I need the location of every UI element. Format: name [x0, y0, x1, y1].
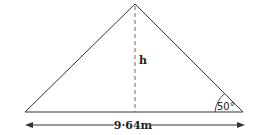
triangle-outline	[25, 4, 243, 112]
angle-label: 50°	[217, 101, 235, 112]
triangle-diagram: h 50° 9·64m	[0, 0, 258, 135]
arrowhead-left-icon	[25, 122, 33, 128]
arrowhead-right-icon	[237, 122, 245, 128]
height-label: h	[139, 54, 147, 67]
base-label: 9·64m	[114, 119, 153, 132]
